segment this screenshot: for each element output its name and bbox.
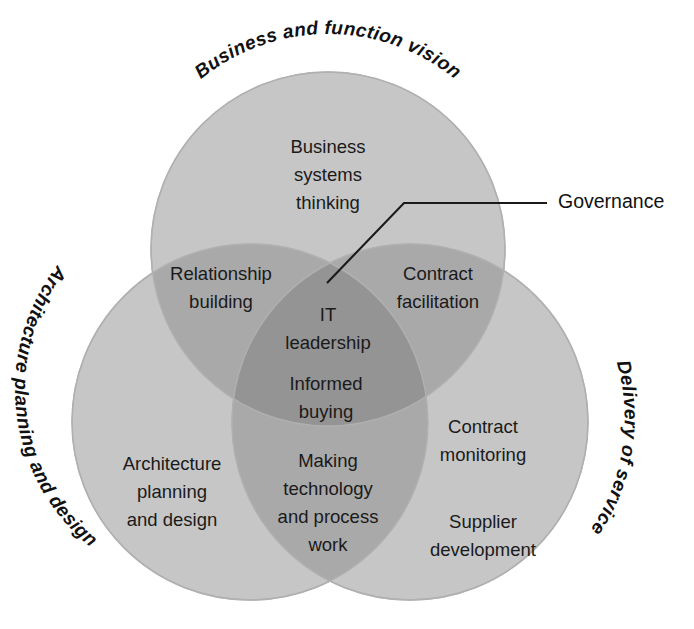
region-label-business-systems-thinking: Business systems thinking bbox=[290, 136, 365, 213]
region-line: leadership bbox=[285, 332, 370, 353]
region-line: IT bbox=[320, 304, 336, 325]
region-line: buying bbox=[299, 401, 354, 422]
region-line: and design bbox=[127, 509, 218, 530]
region-line: planning bbox=[137, 481, 207, 502]
region-line: Supplier bbox=[449, 511, 517, 532]
region-line: Contract bbox=[448, 416, 518, 437]
venn-diagram-container: Business systems thinking Relationship b… bbox=[0, 0, 694, 629]
region-line: monitoring bbox=[440, 444, 526, 465]
region-line: technology bbox=[283, 478, 373, 499]
region-line: Relationship bbox=[170, 263, 272, 284]
region-line: thinking bbox=[296, 192, 360, 213]
region-line: systems bbox=[294, 164, 362, 185]
region-line: and process bbox=[278, 506, 379, 527]
region-line: development bbox=[430, 539, 536, 560]
venn-diagram: Business systems thinking Relationship b… bbox=[0, 0, 694, 629]
region-line: facilitation bbox=[397, 291, 479, 312]
region-label-architecture-planning-and-design: Architecture planning and design bbox=[123, 453, 222, 530]
region-line: Informed bbox=[289, 373, 362, 394]
region-line: Making bbox=[298, 450, 358, 471]
region-line: work bbox=[307, 534, 348, 555]
region-line: Business bbox=[290, 136, 365, 157]
region-line: Contract bbox=[403, 263, 473, 284]
region-line: building bbox=[189, 291, 253, 312]
region-line: Architecture bbox=[123, 453, 222, 474]
governance-label: Governance bbox=[558, 190, 664, 212]
